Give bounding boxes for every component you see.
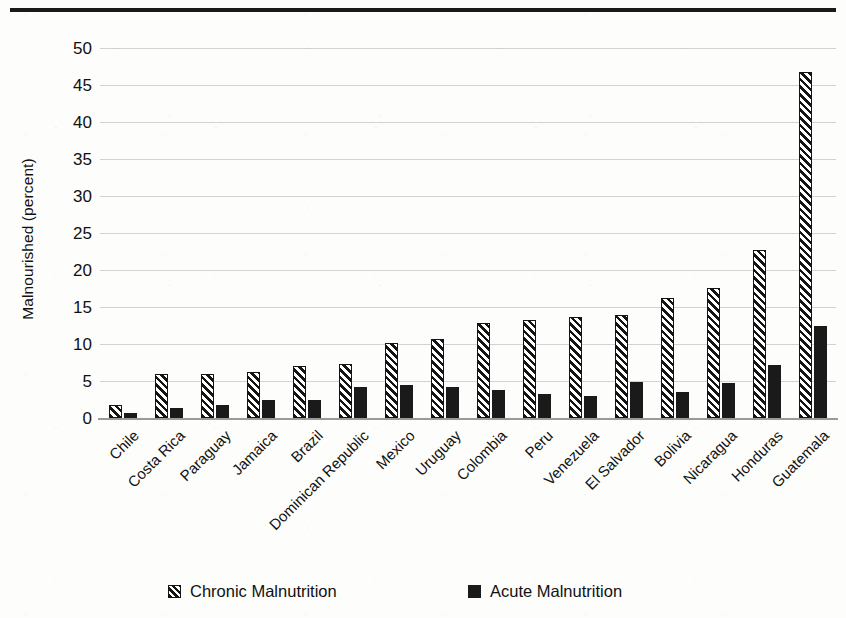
bar-chart-figure: Malnourished (percent) 05101520253035404… bbox=[0, 12, 846, 618]
legend-item[interactable]: Acute Malnutrition bbox=[468, 582, 622, 601]
x-axis-label-text: Mexico bbox=[373, 426, 419, 472]
y-axis-tick-label: 40 bbox=[38, 114, 92, 131]
x-axis-label-text: Peru bbox=[522, 426, 556, 460]
y-axis-tick-labels: 05101520253035404550 bbox=[30, 48, 92, 418]
gridline bbox=[100, 159, 836, 160]
solid-square-swatch-icon bbox=[468, 585, 481, 598]
y-axis-tick-label: 30 bbox=[38, 188, 92, 205]
gridline bbox=[100, 85, 836, 86]
x-axis-label-text: Chile bbox=[106, 426, 142, 462]
gridline bbox=[100, 48, 836, 49]
x-axis-category-labels: ChileCosta RicaParaguayJamaicaBrazilDomi… bbox=[0, 418, 846, 568]
gridline bbox=[100, 270, 836, 271]
y-axis-tick-label: 15 bbox=[38, 299, 92, 316]
legend-item-label: Chronic Malnutrition bbox=[190, 582, 337, 601]
gridline bbox=[100, 196, 836, 197]
gridline bbox=[100, 233, 836, 234]
y-axis-tick-label: 20 bbox=[38, 262, 92, 279]
gridline bbox=[100, 307, 836, 308]
x-axis-label-text: Brazil bbox=[288, 426, 327, 465]
figure-page: Malnourished (percent) 05101520253035404… bbox=[0, 0, 846, 618]
bar bbox=[170, 408, 183, 418]
y-axis-tick-label: 45 bbox=[38, 77, 92, 94]
x-axis-label-text: Bolivia bbox=[651, 426, 694, 469]
gridline bbox=[100, 122, 836, 123]
y-axis-tick-label: 50 bbox=[38, 40, 92, 57]
chart-legend: Chronic MalnutritionAcute Malnutrition bbox=[0, 582, 846, 616]
y-axis-tick-label: 10 bbox=[38, 336, 92, 353]
hatched-square-swatch-icon bbox=[168, 585, 181, 598]
bar bbox=[584, 396, 597, 418]
plot-area bbox=[100, 48, 836, 418]
y-axis-tick-label: 25 bbox=[38, 225, 92, 242]
legend-item-label: Acute Malnutrition bbox=[490, 582, 622, 601]
legend-item[interactable]: Chronic Malnutrition bbox=[168, 582, 337, 601]
bar bbox=[109, 405, 122, 418]
bar bbox=[799, 72, 812, 418]
bar bbox=[354, 387, 367, 418]
y-axis-tick-label: 5 bbox=[38, 373, 92, 390]
gridline bbox=[100, 344, 836, 345]
y-axis-tick-label: 35 bbox=[38, 151, 92, 168]
